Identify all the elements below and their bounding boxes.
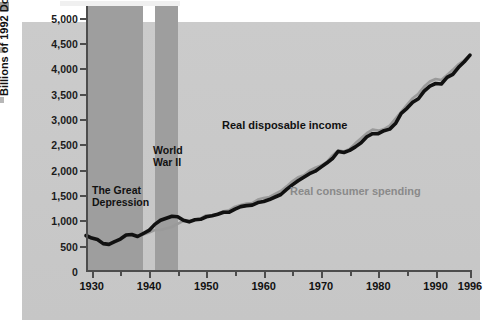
- y-axis-tick-label: 3,000: [0, 114, 78, 126]
- y-axis-line: [86, 6, 88, 272]
- x-axis-tick: [350, 272, 352, 276]
- x-axis-tick: [378, 272, 380, 278]
- y-axis-tick-label: 0: [0, 266, 78, 278]
- x-axis-tick: [206, 272, 208, 278]
- x-axis-tick: [292, 272, 294, 276]
- y-axis-tick-label: 5,000: [0, 13, 78, 25]
- y-axis-tick-label: 1,500: [0, 190, 78, 202]
- y-axis-tick-label: 2,000: [0, 165, 78, 177]
- annotation-great-depression: The Great Depression: [92, 185, 149, 208]
- y-axis-tick: [80, 68, 87, 70]
- series-line: [86, 55, 470, 244]
- y-axis-tick: [80, 94, 87, 96]
- annotation-world-war-two: World War II: [153, 145, 183, 168]
- x-axis-tick-label: 1960: [251, 280, 275, 292]
- y-axis-tick: [80, 195, 87, 197]
- series-line: [86, 55, 470, 244]
- y-axis-tick-label: 4,500: [0, 38, 78, 50]
- x-axis-tick: [178, 272, 180, 276]
- y-axis-tick: [80, 18, 87, 20]
- y-axis-tick-label: 500: [0, 241, 78, 253]
- y-axis-tick-label: 3,500: [0, 89, 78, 101]
- y-axis-tick-label: 4,000: [0, 63, 78, 75]
- x-axis-tick: [407, 272, 409, 276]
- x-axis-tick: [235, 272, 237, 276]
- plot-area: [86, 6, 470, 272]
- x-axis-tick-label: 1990: [423, 280, 447, 292]
- x-axis-tick: [92, 272, 94, 278]
- y-axis-tick: [80, 246, 87, 248]
- x-axis-tick: [264, 272, 266, 278]
- x-axis-tick: [321, 272, 323, 278]
- y-axis-tick-label: 2,500: [0, 139, 78, 151]
- y-axis-tick: [80, 144, 87, 146]
- x-axis-tick-label: 1970: [309, 280, 333, 292]
- y-axis-tick: [80, 170, 87, 172]
- x-axis-tick: [120, 272, 122, 276]
- x-axis-tick-label: 1940: [137, 280, 161, 292]
- x-axis-tick: [470, 272, 472, 278]
- annotation-real-disposable-income: Real disposable income: [222, 120, 347, 132]
- x-axis-tick: [149, 272, 151, 278]
- x-axis-tick-label: 1930: [79, 280, 103, 292]
- series-lines: [86, 6, 470, 272]
- annotation-real-consumer-spending: Real consumer spending: [290, 186, 421, 198]
- x-axis-tick-label: 1980: [366, 280, 390, 292]
- x-axis-tick: [436, 272, 438, 278]
- y-axis-tick: [80, 43, 87, 45]
- y-axis-tick: [80, 119, 87, 121]
- x-axis-tick-label: 1950: [194, 280, 218, 292]
- y-axis-tick-label: 1,000: [0, 215, 78, 227]
- x-axis-tick-label: 1996: [458, 280, 482, 292]
- figure-root: Billions of 1992 Dollars 05001,0001,5002…: [0, 0, 500, 334]
- y-axis-tick: [80, 220, 87, 222]
- x-axis-line: [86, 270, 472, 272]
